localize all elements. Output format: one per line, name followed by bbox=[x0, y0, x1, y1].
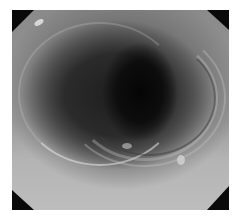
light-reflection bbox=[122, 143, 132, 149]
mucosal-fold-inner bbox=[82, 40, 216, 156]
light-reflection bbox=[33, 18, 44, 27]
light-reflection bbox=[177, 155, 185, 165]
endoscopy-scene bbox=[12, 10, 229, 210]
endoscopy-image-frame bbox=[12, 10, 229, 210]
